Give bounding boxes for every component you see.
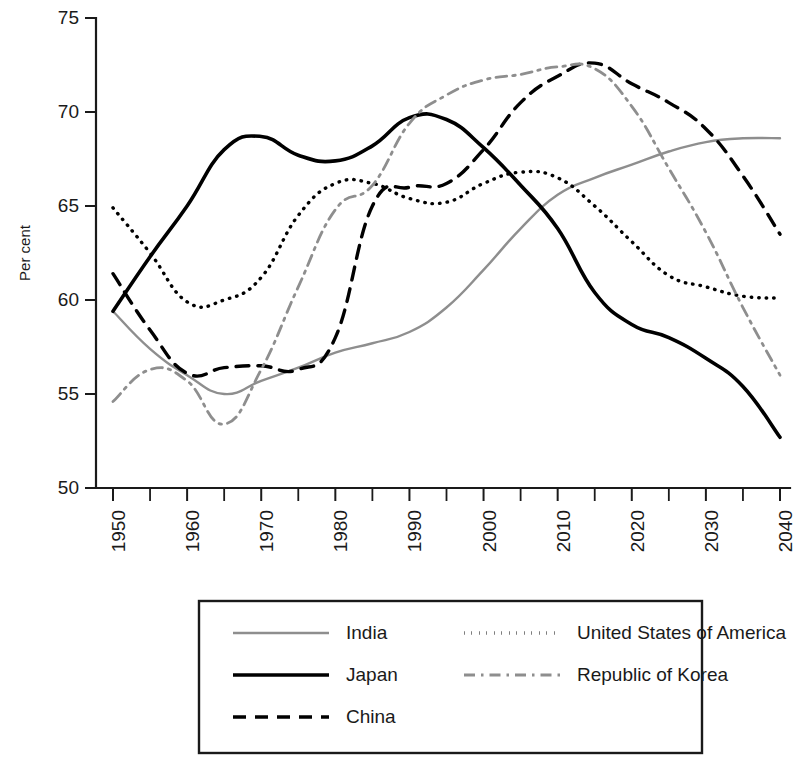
legend-label: Japan — [346, 664, 398, 685]
line-chart: Per cent 505560657075 195019601970198019… — [0, 0, 803, 775]
x-axis-ticks: 1950196019701980199020002010202020302040 — [108, 488, 796, 552]
series-line-united-states-of-america — [113, 171, 780, 307]
series-layer — [113, 63, 780, 437]
x-tick-label: 1990 — [404, 510, 425, 552]
y-tick-label: 55 — [58, 383, 79, 404]
x-tick-label: 1960 — [182, 510, 203, 552]
x-tick-label: 2000 — [479, 510, 500, 552]
x-tick-label: 1980 — [330, 510, 351, 552]
x-tick-label: 2030 — [701, 510, 722, 552]
y-tick-label: 70 — [58, 101, 79, 122]
chart-legend[interactable]: IndiaUnited States of AmericaJapanRepubl… — [199, 601, 787, 753]
x-tick-label: 1950 — [108, 510, 129, 552]
legend-label: China — [346, 706, 396, 727]
y-axis-title: Per cent — [16, 224, 33, 281]
legend-label: India — [346, 622, 388, 643]
x-tick-label: 2010 — [553, 510, 574, 552]
y-tick-label: 65 — [58, 195, 79, 216]
y-tick-label: 75 — [58, 7, 79, 28]
series-line-india — [113, 138, 780, 394]
chart-container: Per cent 505560657075 195019601970198019… — [0, 0, 803, 775]
x-tick-label: 1970 — [256, 510, 277, 552]
series-line-japan — [113, 114, 780, 437]
y-tick-label: 50 — [58, 477, 79, 498]
y-axis-ticks: 505560657075 — [58, 7, 96, 498]
x-tick-label: 2020 — [627, 510, 648, 552]
x-tick-label: 2040 — [775, 510, 796, 552]
y-tick-label: 60 — [58, 289, 79, 310]
series-line-china — [113, 63, 780, 376]
legend-label: United States of America — [577, 622, 787, 643]
legend-label: Republic of Korea — [577, 664, 728, 685]
